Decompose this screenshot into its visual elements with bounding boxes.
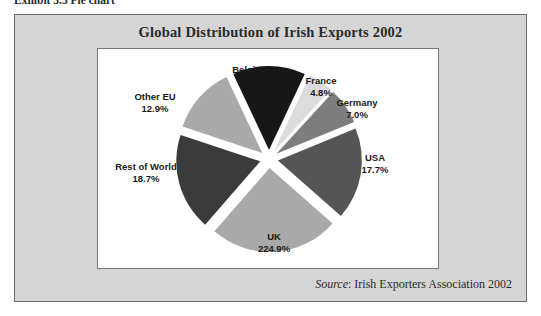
- pie-label-rest-of-world-name: Rest of World: [115, 161, 177, 172]
- pie-label-uk: UK 224.9%: [246, 231, 302, 254]
- pie-label-france-name: France: [305, 75, 336, 86]
- pie-label-uk-value: 224.9%: [246, 243, 302, 255]
- figure-caption-text: Exhibit 3.3 Pie chart: [14, 0, 254, 6]
- source-label: Source: [315, 277, 348, 291]
- pie-label-other-eu-value: 12.9%: [120, 103, 190, 115]
- source-text: : Irish Exporters Association 2002: [348, 277, 512, 291]
- pie-label-uk-name: UK: [267, 231, 281, 242]
- chart-title: Global Distribution of Irish Exports 200…: [15, 24, 526, 41]
- plot-area: Belgium 14.0% France 4.8% Germany 7.0% U…: [97, 48, 439, 269]
- pie-label-rest-of-world: Rest of World 18.7%: [100, 161, 192, 184]
- figure-caption-strip: Exhibit 3.3 Pie chart: [14, 0, 254, 6]
- pie-label-usa-name: USA: [365, 152, 385, 163]
- figure-panel: Global Distribution of Irish Exports 200…: [14, 14, 527, 302]
- pie-label-other-eu-name: Other EU: [134, 91, 175, 102]
- pie-label-germany-name: Germany: [336, 97, 377, 108]
- pie-label-belgium: Belgium 14.0%: [216, 64, 286, 87]
- pie-label-belgium-name: Belgium: [232, 64, 269, 75]
- pie-label-germany: Germany 7.0%: [326, 97, 388, 120]
- pie-label-usa: USA 17.7%: [350, 152, 400, 175]
- pie-label-other-eu: Other EU 12.9%: [120, 91, 190, 114]
- pie-label-germany-value: 7.0%: [326, 109, 388, 121]
- pie-label-usa-value: 17.7%: [350, 164, 400, 176]
- source-attribution: Source: Irish Exporters Association 2002: [315, 277, 512, 292]
- pie-label-france: France 4.8%: [294, 75, 348, 98]
- pie-label-rest-of-world-value: 18.7%: [100, 173, 192, 185]
- pie-label-belgium-value: 14.0%: [216, 76, 286, 88]
